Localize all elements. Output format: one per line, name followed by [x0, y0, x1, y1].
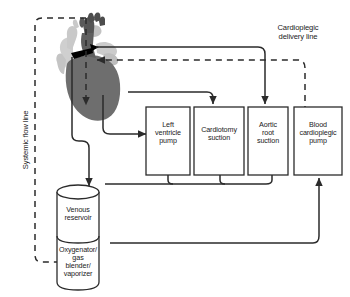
- cardioplegic-delivery-line: [97, 60, 305, 112]
- suction-return-manifold: [105, 175, 272, 184]
- heart-illustration: [56, 13, 120, 121]
- box-left-ventricle-pump: [146, 107, 190, 175]
- aortic-root-suction-line: [96, 47, 265, 104]
- cpb-circuit-diagram: Left ventricle pump Cardiotomy suction A…: [0, 0, 350, 297]
- reservoir-oxygenator-cylinder: [57, 185, 99, 290]
- box-blood-cardioplegic-pump: [294, 107, 342, 175]
- box-aortic-root-suction: [248, 107, 288, 175]
- cardiotomy-suction-line: [128, 92, 213, 104]
- diagram-canvas: [0, 0, 350, 297]
- box-cardiotomy-suction: [194, 107, 244, 175]
- oxygenator-to-cardioplegic-pump-line: [110, 178, 319, 243]
